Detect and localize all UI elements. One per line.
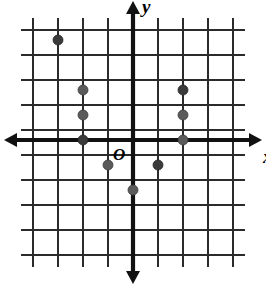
- data-points-group: [53, 35, 188, 195]
- y-axis-down-arrow-icon: [126, 271, 140, 284]
- data-point: [78, 85, 88, 95]
- data-point: [53, 35, 63, 45]
- data-point: [153, 160, 163, 170]
- x-axis-left-arrow-icon: [4, 133, 17, 147]
- origin-label: O: [113, 145, 125, 164]
- data-point: [78, 110, 88, 120]
- y-axis-label: y: [140, 0, 151, 17]
- data-point: [178, 85, 188, 95]
- data-point: [178, 110, 188, 120]
- axes-group: [4, 1, 262, 284]
- data-point: [178, 135, 188, 145]
- y-axis-up-arrow-icon: [126, 1, 140, 14]
- x-axis-right-arrow-icon: [249, 133, 262, 147]
- scatter-plot-svg: x y O: [0, 0, 266, 285]
- data-point: [103, 160, 113, 170]
- coordinate-plane-figure: x y O: [0, 0, 266, 285]
- data-point: [78, 135, 88, 145]
- x-axis-label: x: [262, 146, 266, 167]
- data-point: [128, 185, 138, 195]
